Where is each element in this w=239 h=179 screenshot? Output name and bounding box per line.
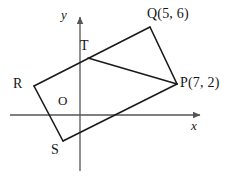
y-axis-label: y [61,8,67,21]
segment-qp [150,27,177,84]
origin-label: O [58,94,67,107]
point-label-p: P(7, 2) [180,76,220,90]
point-label-r: R [13,77,23,91]
point-label-s: S [51,143,59,157]
segment-rq [34,27,150,86]
segment-tp [88,58,177,84]
x-axis-label: x [191,119,197,132]
point-label-q: Q(5, 6) [147,7,189,21]
geometry-figure: Q(5, 6) P(7, 2) R S T O x y [0,0,239,179]
point-label-t: T [80,39,89,53]
